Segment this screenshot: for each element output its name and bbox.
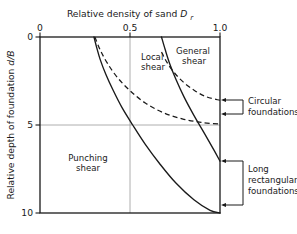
figure-container: Relative density of sand D r 0 0.5 1.0 R… <box>0 0 297 234</box>
region-label-general-shear-line1: General <box>176 46 210 56</box>
annotation-circular-line2: foundations <box>248 107 297 117</box>
region-label-local-shear: Local shear <box>141 52 165 72</box>
annotation-rectangular-line3: foundations <box>248 186 297 196</box>
annotation-rectangular-line2: rectangular <box>248 175 297 185</box>
region-label-general-shear: General shear <box>176 46 210 66</box>
region-label-punching-shear-line1: Punching <box>68 153 107 163</box>
annotation-circular-line1: Circular <box>248 96 282 106</box>
y-tick-label-1: 5 <box>27 119 33 130</box>
region-label-local-shear-line1: Local <box>141 52 163 62</box>
y-axis-title: Relative depth of foundation d/B <box>5 50 16 199</box>
y-axis-title-main: Relative depth of foundation <box>5 68 16 199</box>
region-label-local-shear-line2: shear <box>141 62 165 72</box>
vesic-failure-mode-chart: Relative density of sand D r 0 0.5 1.0 R… <box>0 0 297 234</box>
region-label-general-shear-line2: shear <box>182 56 206 66</box>
x-tick-label-0: 0 <box>37 22 43 33</box>
y-tick-label-2: 10 <box>21 207 33 218</box>
x-tick-label-1: 0.5 <box>123 22 138 33</box>
x-tick-label-2: 1.0 <box>213 22 228 33</box>
region-label-punching-shear-line2: shear <box>76 163 100 173</box>
y-axis-title-symbol: d/B <box>5 50 16 65</box>
x-axis-title-main: Relative density of sand <box>67 8 177 19</box>
y-tick-label-0: 0 <box>27 31 33 42</box>
annotation-rectangular-line1: Long <box>248 164 269 174</box>
x-axis-title-symbol: D <box>180 8 187 19</box>
chart-background <box>0 0 297 234</box>
